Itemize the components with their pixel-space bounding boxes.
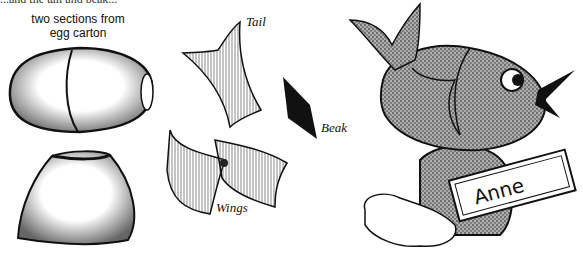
craft-illustration: ...and the tail and beak... two sections… (0, 0, 583, 259)
egg-carton-cup (18, 151, 134, 244)
beak-label: Beak (321, 120, 347, 136)
drawing-canvas: Anne (0, 0, 583, 259)
beak-piece (283, 77, 317, 139)
tail-label: Tail (246, 14, 266, 30)
wings-label: Wings (216, 200, 248, 216)
tail-piece (183, 22, 261, 127)
egg-carton-closed (10, 48, 153, 132)
